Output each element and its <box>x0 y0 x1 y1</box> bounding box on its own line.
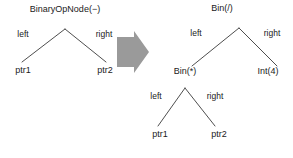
tree-edges <box>0 0 293 158</box>
left-tree-edge-label-right: right <box>96 29 113 39</box>
right-tree-root-label: Bin(/) <box>211 3 233 14</box>
right-tree-leaf-ptr2: ptr2 <box>211 129 227 140</box>
left-tree-edge-label-left: left <box>17 29 28 39</box>
right-tree-edge-label-left-top: left <box>190 28 201 38</box>
right-tree-leaf-ptr1: ptr1 <box>152 129 168 140</box>
right-tree-edge-to-ptr1 <box>158 88 185 126</box>
diagram-canvas: BinaryOpNode(−) left right ptr1 ptr2 Bin… <box>0 0 293 158</box>
right-tree-edge-label-left-bottom: left <box>150 91 161 101</box>
right-tree-edge-label-right-top: right <box>264 28 281 38</box>
transform-arrow-icon <box>117 31 149 73</box>
right-tree-node-bin-mul: Bin(*) <box>174 66 197 77</box>
left-tree-leaf-ptr1: ptr1 <box>15 65 31 76</box>
right-tree-edge-label-right-bottom: right <box>207 91 224 101</box>
left-tree-root-label: BinaryOpNode(−) <box>30 4 100 15</box>
left-tree-leaf-ptr2: ptr2 <box>97 65 113 76</box>
right-tree-leaf-int4: Int(4) <box>257 66 278 77</box>
